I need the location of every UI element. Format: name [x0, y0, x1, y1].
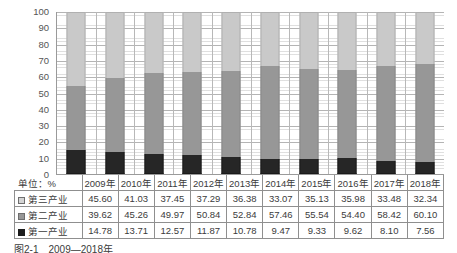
bar-segment[interactable]: [222, 71, 241, 157]
bar-slot: [57, 12, 96, 174]
table-cell-value: 33.48: [371, 191, 407, 207]
data-table-wrap: 单位：% 2009年2010年2011年2012年2013年2014年2015年…: [14, 175, 444, 239]
table-column-header: 2013年: [227, 175, 263, 191]
bar-slot: [134, 12, 173, 174]
bar-segment[interactable]: [222, 12, 241, 71]
bar-segment[interactable]: [67, 150, 86, 174]
y-axis-tick: 30: [38, 121, 49, 131]
table-cell-value: 13.71: [118, 223, 154, 239]
table-cell-value: 58.42: [371, 207, 407, 223]
legend-swatch-icon: [18, 213, 25, 220]
table-column-header: 2009年: [82, 175, 118, 191]
bar-segment[interactable]: [299, 12, 318, 69]
bar-segment[interactable]: [67, 12, 86, 86]
figure-stacked-bar-with-table: 1009080706050403020100 单位：% 2009年2010年20…: [0, 0, 457, 253]
bar-segment[interactable]: [338, 158, 357, 174]
table-cell-value: 57.46: [263, 207, 299, 223]
table-cell-value: 49.97: [154, 207, 190, 223]
y-axis-tick: 90: [38, 24, 49, 34]
legend-row-label: 第三产业: [15, 191, 83, 207]
table-cell-value: 33.07: [263, 191, 299, 207]
table-cell-value: 45.26: [118, 207, 154, 223]
table-cell-value: 14.78: [82, 223, 118, 239]
chart-area: 1009080706050403020100: [0, 0, 457, 182]
y-axis-tick: 40: [38, 105, 49, 115]
bar-segment[interactable]: [338, 70, 357, 158]
bar-slot: [367, 12, 406, 174]
bar-segment[interactable]: [376, 12, 395, 66]
y-axis-tick: 60: [38, 72, 49, 82]
table-cell-value: 37.45: [154, 191, 190, 207]
table-cell-value: 37.29: [190, 191, 226, 207]
table-cell-value: 35.13: [299, 191, 335, 207]
table-column-header: 2012年: [190, 175, 226, 191]
table-cell-value: 45.60: [82, 191, 118, 207]
table-cell-value: 36.38: [227, 191, 263, 207]
bar-segment[interactable]: [415, 12, 434, 64]
y-axis-tick: 20: [38, 138, 49, 148]
stacked-bar[interactable]: [183, 12, 202, 174]
stacked-bar[interactable]: [144, 12, 163, 174]
table-column-header: 2016年: [335, 175, 371, 191]
bar-segment[interactable]: [415, 64, 434, 161]
bar-slot: [212, 12, 251, 174]
table-column-header: 2018年: [407, 175, 443, 191]
bar-slot: [405, 12, 444, 174]
bar-segment[interactable]: [415, 162, 434, 174]
bar-segment[interactable]: [260, 12, 279, 66]
stacked-bar[interactable]: [67, 12, 86, 174]
table-column-header: 2015年: [299, 175, 335, 191]
bar-segment[interactable]: [67, 86, 86, 150]
bar-segment[interactable]: [144, 154, 163, 174]
bar-segment[interactable]: [106, 152, 125, 174]
bar-segment[interactable]: [106, 78, 125, 151]
bar-segment[interactable]: [183, 155, 202, 174]
bar-slot: [328, 12, 367, 174]
bar-slot: [289, 12, 328, 174]
y-axis-tick: 50: [38, 89, 49, 99]
y-axis-tick: 70: [38, 56, 49, 66]
table-row: 第二产业39.6245.2649.9750.8452.8457.4655.545…: [15, 207, 444, 223]
table-column-header: 2017年: [371, 175, 407, 191]
series-name: 第一产业: [28, 226, 68, 237]
bar-segment[interactable]: [299, 159, 318, 174]
table-cell-value: 12.57: [154, 223, 190, 239]
bar-segment[interactable]: [376, 161, 395, 174]
plot-area: [56, 12, 444, 175]
legend-swatch-icon: [18, 197, 25, 204]
table-column-header: 2010年: [118, 175, 154, 191]
stacked-bar[interactable]: [376, 12, 395, 174]
table-column-header: 2014年: [263, 175, 299, 191]
stacked-bar[interactable]: [299, 12, 318, 174]
bar-segment[interactable]: [144, 12, 163, 73]
stacked-bar[interactable]: [106, 12, 125, 174]
bar-segment[interactable]: [338, 12, 357, 70]
bar-segment[interactable]: [299, 69, 318, 159]
y-axis-tick: 100: [33, 7, 49, 17]
bar-segment[interactable]: [183, 72, 202, 154]
table-row: 第三产业45.6041.0337.4537.2936.3833.0735.133…: [15, 191, 444, 207]
table-cell-value: 9.33: [299, 223, 335, 239]
bar-segment[interactable]: [144, 73, 163, 154]
bar-segment[interactable]: [183, 12, 202, 72]
legend-swatch-icon: [18, 229, 25, 236]
stacked-bar[interactable]: [415, 12, 434, 174]
bar-segment[interactable]: [222, 157, 241, 174]
table-cell-value: 10.78: [227, 223, 263, 239]
stacked-bar[interactable]: [222, 12, 241, 174]
table-cell-value: 7.56: [407, 223, 443, 239]
table-cell-value: 9.62: [335, 223, 371, 239]
table-cell-value: 41.03: [118, 191, 154, 207]
table-cell-value: 50.84: [190, 207, 226, 223]
stacked-bar[interactable]: [260, 12, 279, 174]
bar-segment[interactable]: [376, 66, 395, 161]
table-cell-value: 55.54: [299, 207, 335, 223]
y-axis: 1009080706050403020100: [14, 12, 52, 175]
legend-row-label: 第一产业: [15, 223, 83, 239]
bar-segment[interactable]: [260, 66, 279, 159]
table-row: 第一产业14.7813.7112.5711.8710.789.479.339.6…: [15, 223, 444, 239]
bar-segment[interactable]: [260, 159, 279, 174]
stacked-bar[interactable]: [338, 12, 357, 174]
legend-row-label: 第二产业: [15, 207, 83, 223]
bar-segment[interactable]: [106, 12, 125, 78]
